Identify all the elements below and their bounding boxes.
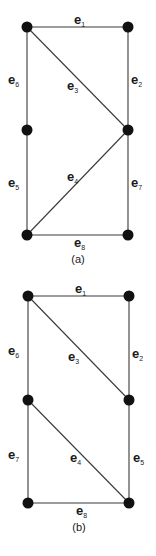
- caption-a: (a): [71, 253, 84, 265]
- edge-b-e3: [28, 296, 129, 400]
- label-a-e6: e6: [8, 72, 19, 88]
- caption-b: (b): [72, 521, 85, 533]
- node-b-mid-right: [124, 395, 135, 406]
- edge-b-e4: [28, 400, 129, 503]
- label-b-e1: e1: [75, 281, 86, 297]
- node-a-top-right: [123, 22, 134, 33]
- node-b-bottom-left: [23, 498, 34, 509]
- label-b-e7: e7: [8, 447, 19, 463]
- node-b-mid-left: [23, 395, 34, 406]
- node-a-top-left: [22, 22, 33, 33]
- label-b-e5: e5: [133, 450, 144, 466]
- label-a-e5: e5: [8, 175, 19, 191]
- label-a-e7: e7: [131, 175, 142, 191]
- node-a-bottom-right: [123, 230, 134, 241]
- node-a-bottom-left: [22, 230, 33, 241]
- figure-a: e1 e2 e3 e4 e5 e6 e7 e8 (a): [8, 12, 142, 265]
- node-b-bottom-right: [124, 498, 135, 509]
- node-a-mid-left: [22, 125, 33, 136]
- label-a-e8: e8: [74, 235, 85, 251]
- node-a-mid-right: [123, 125, 134, 136]
- graph-diagram: e1 e2 e3 e4 e5 e6 e7 e8 (a) e1 e2 e3 e4 …: [0, 0, 156, 556]
- label-a-e1: e1: [74, 12, 85, 28]
- label-a-e4: e4: [67, 169, 78, 185]
- label-b-e6: e6: [8, 343, 19, 359]
- label-b-e3: e3: [68, 349, 79, 365]
- node-b-top-right: [124, 291, 135, 302]
- label-a-e2: e2: [131, 72, 142, 88]
- node-b-top-left: [23, 291, 34, 302]
- label-b-e8: e8: [76, 503, 87, 519]
- label-b-e2: e2: [132, 346, 143, 362]
- label-a-e3: e3: [67, 78, 78, 94]
- figure-b: e1 e2 e3 e4 e5 e6 e7 e8 (b): [8, 281, 144, 533]
- edge-a-e3: [27, 27, 128, 130]
